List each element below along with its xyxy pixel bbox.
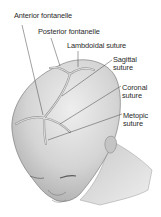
label-posterior-fontanelle: Posterior fontanelle: [38, 28, 100, 36]
label-sagittal-suture: Sagittal suture: [113, 56, 137, 72]
label-coronal-line2: suture: [122, 92, 147, 100]
leader-posterior-fontanelle: [51, 38, 60, 66]
label-metopic-line2: suture: [123, 120, 148, 128]
label-sagittal-line2: suture: [113, 64, 137, 72]
label-anterior-fontanelle: Anterior fontanelle: [14, 12, 72, 20]
label-coronal-suture: Coronal suture: [122, 84, 147, 100]
label-lambdoidal-suture: Lambdoidal suture: [67, 42, 126, 50]
label-metopic-suture: Metopic suture: [123, 112, 148, 128]
infant-skull-diagram: Anterior fontanelle Posterior fontanelle…: [0, 0, 161, 217]
